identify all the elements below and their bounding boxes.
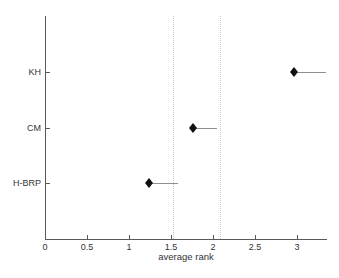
x-axis-title: average rank <box>45 251 327 262</box>
y-tick <box>46 72 50 73</box>
interval-line <box>294 72 326 73</box>
x-tick <box>297 235 298 239</box>
y-axis-label: KH <box>3 66 41 78</box>
diamond-marker <box>145 178 153 188</box>
diamond-marker <box>290 67 298 77</box>
figure: 00.511.522.53KHCMH-BRP average rank <box>0 0 339 278</box>
diamond-marker <box>189 123 197 133</box>
y-tick <box>46 128 50 129</box>
y-axis-label: CM <box>3 122 41 134</box>
x-tick <box>129 235 130 239</box>
y-tick <box>46 183 50 184</box>
x-tick <box>213 235 214 239</box>
x-tick <box>255 235 256 239</box>
dotted-gridline <box>173 16 174 239</box>
x-tick <box>171 235 172 239</box>
y-axis-label: H-BRP <box>3 177 41 189</box>
dotted-gridline <box>220 16 221 239</box>
interval-line <box>149 183 178 184</box>
x-tick <box>87 235 88 239</box>
plot-area: 00.511.522.53KHCMH-BRP <box>0 0 339 278</box>
x-tick <box>45 235 46 239</box>
x-axis-line <box>45 239 327 240</box>
